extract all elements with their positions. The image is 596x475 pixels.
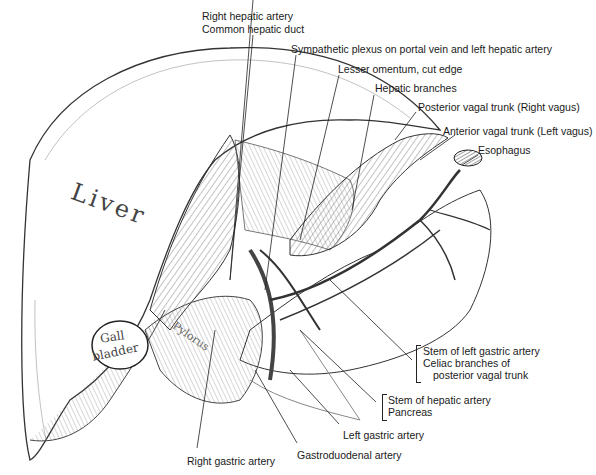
label-anterior-vagal-trunk: Anterior vagal trunk (Left vagus) [443,125,592,137]
bracket-hepatic [382,394,387,421]
label-pancreas: Pancreas [388,406,432,418]
label-sympathetic-plexus: Sympathetic plexus on portal vein and le… [291,43,552,55]
label-gastroduodenal-artery: Gastroduodenal artery [297,449,401,461]
label-stem-hepatic-artery: Stem of hepatic artery [388,394,491,406]
label-right-gastric-artery: Right gastric artery [187,455,275,467]
label-common-hepatic-duct: Common hepatic duct [202,23,304,35]
label-left-gastric-artery: Left gastric artery [343,429,424,441]
label-hepatic-branches: Hepatic branches [375,82,457,94]
label-esophagus: Esophagus [478,144,531,156]
label-right-hepatic-artery: Right hepatic artery [202,10,293,22]
label-posterior-vagal-trunk: Posterior vagal trunk (Right vagus) [418,101,580,113]
label-lesser-omentum: Lesser omentum, cut edge [338,63,462,75]
label-celiac-branches-2: posterior vagal trunk [433,369,528,381]
bracket-celiac [416,345,421,383]
label-stem-left-gastric: Stem of left gastric artery [423,345,540,357]
label-celiac-branches-1: Celiac branches of [423,357,510,369]
anatomy-illustration [0,0,596,475]
